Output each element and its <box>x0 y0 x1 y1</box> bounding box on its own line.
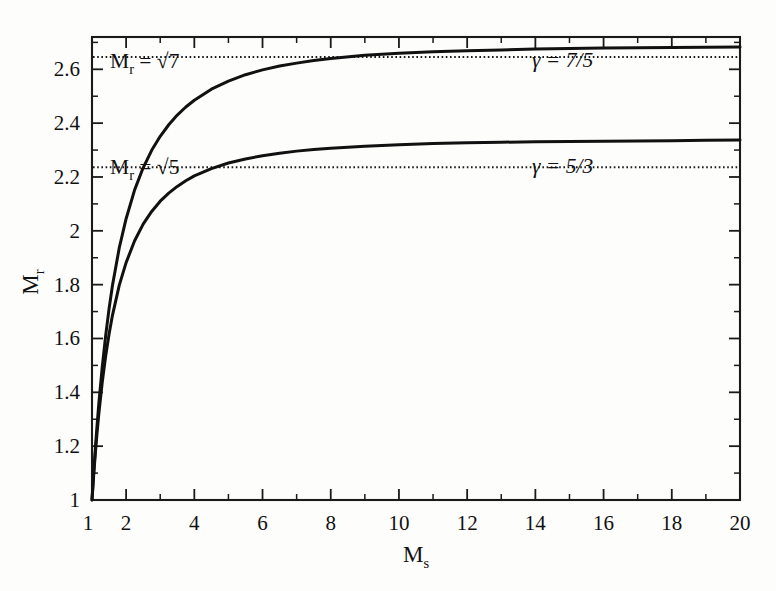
y-tick-label: 1.6 <box>54 326 80 350</box>
figure-canvas: 2468101214161820111.21.41.61.822.22.42.6… <box>0 0 776 591</box>
x-axis-label: Ms <box>403 542 429 571</box>
mach-number-plot: 2468101214161820111.21.41.61.822.22.42.6… <box>0 0 776 591</box>
y-tick-label: 2.6 <box>54 57 80 81</box>
plot-frame <box>92 37 740 500</box>
y-tick-label: 2.4 <box>54 111 81 135</box>
annotation-sqrt7-eq: = √7 <box>134 49 180 73</box>
y-tick-label: 2 <box>70 219 81 243</box>
y-axis-label-sub: r <box>31 269 47 274</box>
x-tick-label: 20 <box>730 511 751 535</box>
annotation-sqrt5-main: M <box>110 155 129 179</box>
y-axis-label: Mr <box>18 269 47 294</box>
asymptote-lines <box>93 57 739 167</box>
annotation-sqrt7-main: M <box>110 49 129 73</box>
x-tick-label: 14 <box>525 511 547 535</box>
annotation-gamma-75: γ = 7/5 <box>532 48 593 72</box>
y-tick-label: 1.4 <box>54 380 81 404</box>
y-tick-label: 1.8 <box>54 273 80 297</box>
x-tick-label-origin: 1 <box>83 511 94 535</box>
y-tick-label: 1.2 <box>54 434 80 458</box>
curve-series-1 <box>92 140 740 500</box>
data-curves <box>92 47 740 500</box>
x-axis-label-main: M <box>403 542 423 567</box>
x-tick-label: 4 <box>189 511 200 535</box>
y-tick-label: 1 <box>70 488 81 512</box>
annotation-sqrt7: Mr = √7 <box>110 49 180 77</box>
x-tick-label: 10 <box>388 511 409 535</box>
annotation-sqrt5-eq: = √5 <box>134 155 179 179</box>
y-axis-label-main: M <box>18 274 43 294</box>
x-tick-label: 18 <box>661 511 682 535</box>
x-tick-label: 6 <box>257 511 268 535</box>
curve-series-0 <box>92 47 740 500</box>
x-axis-label-sub: s <box>423 555 429 571</box>
annotation-sqrt5: Mr = √5 <box>110 155 179 183</box>
x-tick-label: 2 <box>121 511 132 535</box>
x-tick-label: 12 <box>457 511 478 535</box>
x-tick-label: 8 <box>325 511 336 535</box>
tick-labels: 2468101214161820111.21.41.61.822.22.42.6 <box>54 57 751 535</box>
annotation-gamma-53: γ = 5/3 <box>532 154 593 178</box>
axis-ticks <box>92 37 740 500</box>
x-tick-label: 16 <box>593 511 614 535</box>
y-tick-label: 2.2 <box>54 165 80 189</box>
